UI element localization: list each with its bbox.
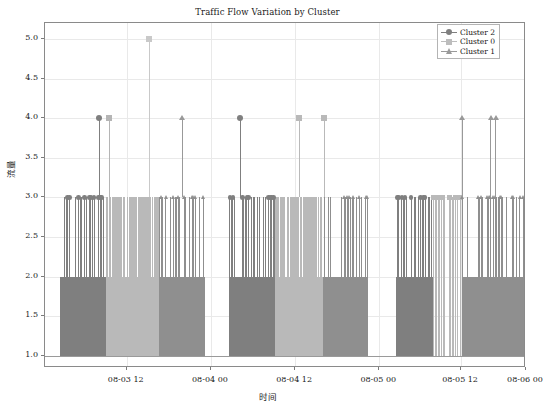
triangle-marker <box>179 115 185 120</box>
stem-line <box>341 197 342 356</box>
square-marker <box>296 115 302 121</box>
stem-line <box>86 197 87 356</box>
legend-square-icon <box>446 39 452 45</box>
stem-line <box>195 197 196 356</box>
stem-gap <box>299 197 300 276</box>
stem-line <box>353 197 354 356</box>
stem-gap <box>279 197 280 276</box>
legend-marker <box>441 37 457 46</box>
square-marker <box>321 115 327 121</box>
stem-line <box>502 197 503 356</box>
x-tick-label: 08-05 00 <box>343 375 413 384</box>
stem-gap <box>122 197 123 276</box>
peak-stem <box>182 118 183 197</box>
stem-line <box>431 197 432 356</box>
stem-line <box>203 197 204 356</box>
triangle-marker <box>521 195 525 199</box>
stem-line <box>444 197 445 356</box>
legend-item-cluster-1[interactable]: Cluster 1 <box>441 47 495 56</box>
triangle-marker <box>459 115 465 120</box>
stem-gap <box>111 197 112 276</box>
stem-line <box>259 197 260 356</box>
x-tick-label: 08-05 12 <box>425 375 495 384</box>
stem-line <box>165 197 166 356</box>
stem-line <box>189 197 190 356</box>
stem-gap <box>286 197 287 276</box>
stem-gap <box>302 197 303 276</box>
stem-gap <box>108 197 109 276</box>
stem-line <box>406 197 407 356</box>
stem-line <box>81 197 82 356</box>
stem-line <box>330 197 331 356</box>
legend-marker <box>441 28 457 37</box>
plot-area <box>44 22 525 367</box>
stem-gap <box>153 197 154 276</box>
stem-line <box>367 197 368 356</box>
circle-marker <box>246 195 251 200</box>
square-marker <box>106 115 112 121</box>
legend-label: Cluster 1 <box>460 47 495 56</box>
legend-item-cluster-2[interactable]: Cluster 2 <box>441 28 495 37</box>
gridline-y-4.5 <box>45 79 524 80</box>
circle-marker <box>423 195 428 200</box>
legend-item-cluster-0[interactable]: Cluster 0 <box>441 37 495 46</box>
stem-line <box>199 197 200 356</box>
legend-circle-icon <box>446 29 452 35</box>
peak-stem <box>99 118 100 197</box>
stem-line <box>170 197 171 356</box>
gridline-y-3.5 <box>45 158 524 159</box>
legend[interactable]: Cluster 2Cluster 0Cluster 1 <box>437 24 500 59</box>
stem-line <box>523 197 524 356</box>
x-tick-mark <box>294 367 295 370</box>
stem-line <box>457 197 458 356</box>
stem-line <box>506 197 507 356</box>
stem-line <box>398 197 399 356</box>
legend-triangle-icon <box>446 48 452 54</box>
stem-line <box>248 197 249 356</box>
legend-marker <box>441 47 457 56</box>
x-tick-mark <box>525 367 526 370</box>
triangle-marker <box>365 195 369 199</box>
stem-line <box>462 197 463 356</box>
stem-line <box>234 197 235 356</box>
x-tick-mark <box>378 367 379 370</box>
x-tick-label: 08-04 12 <box>259 375 329 384</box>
circle-marker <box>237 115 243 121</box>
stem-gap <box>128 197 129 276</box>
stem-line <box>324 197 325 356</box>
x-tick-label: 08-06 00 <box>490 375 547 384</box>
triangle-marker <box>201 195 205 199</box>
x-tick-mark <box>210 367 211 370</box>
stem-line <box>185 197 186 356</box>
stem-line <box>516 197 517 356</box>
stem-line <box>94 197 95 356</box>
stem-gap <box>319 197 320 276</box>
peak-stem <box>109 118 110 197</box>
stem-line <box>411 197 412 356</box>
gridline-x-1 <box>211 23 212 366</box>
stem-line <box>361 197 362 356</box>
peak-stem <box>149 39 150 198</box>
stem-line <box>162 197 163 356</box>
triangle-marker <box>511 195 515 199</box>
stem-line <box>519 197 520 356</box>
stem-line <box>265 197 266 356</box>
x-tick-label: 08-03 12 <box>91 375 161 384</box>
stem-gap <box>289 197 290 276</box>
peak-stem <box>240 118 241 197</box>
peak-stem <box>495 118 496 197</box>
legend-label: Cluster 2 <box>460 28 495 37</box>
stem-line <box>482 197 483 356</box>
stem-line <box>69 197 70 356</box>
stem-line <box>490 197 491 356</box>
triangle-marker <box>193 195 197 199</box>
legend-label: Cluster 0 <box>460 37 495 46</box>
peak-stem <box>324 118 325 197</box>
circle-marker <box>67 195 72 200</box>
stem-line <box>460 197 461 356</box>
peak-stem <box>299 118 300 197</box>
triangle-marker <box>351 195 355 199</box>
stem-gap <box>137 197 138 276</box>
baseline <box>45 356 524 357</box>
